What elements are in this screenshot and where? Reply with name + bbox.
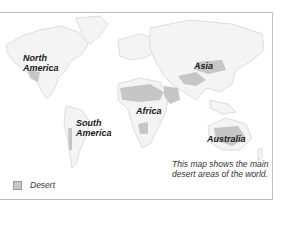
caption-line2: desert areas of the world. (172, 169, 272, 179)
label-south-america-line2: America (76, 128, 112, 138)
label-africa: Africa (136, 106, 162, 116)
label-north-america-line2: America (23, 63, 59, 73)
map-legend: Desert (13, 180, 55, 190)
label-south-america-line1: South (76, 118, 112, 128)
label-south-america: South America (76, 118, 112, 138)
map-caption: This map shows the main desert areas of … (172, 159, 272, 179)
se-asia-land (210, 100, 236, 114)
label-north-america: North America (23, 53, 59, 73)
desert-swatch (13, 181, 22, 190)
caption-line1: This map shows the main (172, 159, 272, 169)
label-asia: Asia (194, 61, 213, 71)
legend-label-desert: Desert (30, 180, 55, 190)
label-north-america-line1: North (23, 53, 59, 63)
label-australia: Australia (207, 134, 246, 144)
